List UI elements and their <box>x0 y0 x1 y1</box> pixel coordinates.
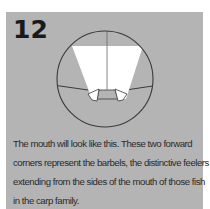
caption-line: corners represent the barbels, the disti… <box>13 153 203 172</box>
crease-lines <box>46 30 166 101</box>
step-caption: The mouth will look like this. These two… <box>13 134 203 209</box>
caption-line: extending from the sides of the mouth of… <box>13 172 203 191</box>
caption-line: The mouth will look like this. These two… <box>13 134 203 153</box>
instruction-step-panel: 12 The mouth will look like this. These … <box>6 12 203 209</box>
caption-line: in the carp family. <box>13 191 203 209</box>
